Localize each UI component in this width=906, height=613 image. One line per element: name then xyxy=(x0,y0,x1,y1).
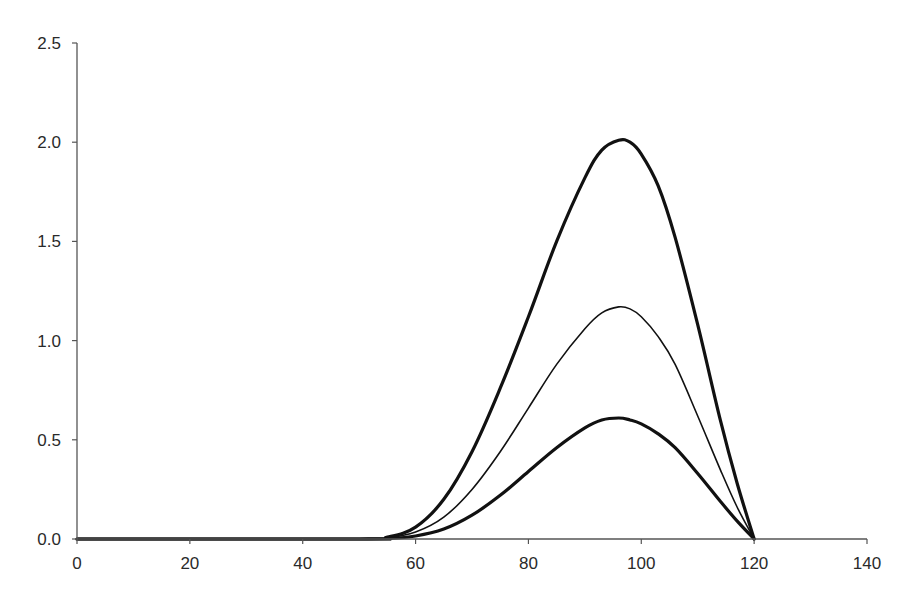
x-axis-ticks: 020406080100120140 xyxy=(72,539,881,573)
series-lines xyxy=(77,140,754,539)
line-chart: 0.00.51.01.52.02.5 020406080100120140 xyxy=(0,0,906,613)
plot-area: 0.00.51.01.52.02.5 020406080100120140 xyxy=(37,34,881,573)
series-line-3 xyxy=(77,418,754,539)
y-tick-label: 0.0 xyxy=(37,530,61,549)
x-tick-label: 0 xyxy=(72,554,81,573)
y-tick-label: 1.5 xyxy=(37,232,61,251)
x-tick-label: 80 xyxy=(519,554,538,573)
y-axis-ticks: 0.00.51.01.52.02.5 xyxy=(37,34,77,549)
x-tick-label: 20 xyxy=(180,554,199,573)
x-tick-label: 60 xyxy=(406,554,425,573)
series-line-2 xyxy=(77,307,754,539)
y-tick-label: 2.0 xyxy=(37,133,61,152)
series-line-1 xyxy=(77,140,754,539)
y-tick-label: 0.5 xyxy=(37,431,61,450)
y-tick-label: 2.5 xyxy=(37,34,61,53)
x-tick-label: 40 xyxy=(293,554,312,573)
x-tick-label: 100 xyxy=(627,554,655,573)
y-tick-label: 1.0 xyxy=(37,332,61,351)
x-tick-label: 140 xyxy=(853,554,881,573)
x-tick-label: 120 xyxy=(740,554,768,573)
